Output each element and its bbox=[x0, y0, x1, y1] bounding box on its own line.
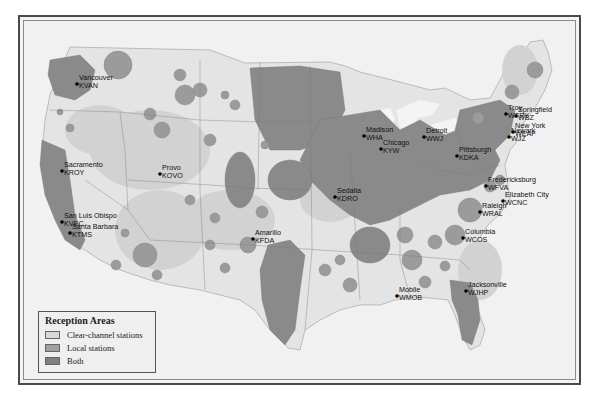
local-swatch bbox=[45, 344, 60, 352]
station-marker: Elizabeth CityWCNC bbox=[501, 190, 549, 207]
station-marker: SpringfieldWBZ bbox=[514, 105, 552, 122]
station-call-sign: WRAL bbox=[482, 209, 503, 218]
station-call-sign: WCNC bbox=[505, 198, 527, 207]
station-call-sign: KOVO bbox=[162, 171, 183, 180]
station-marker: NewarkWJZ bbox=[507, 126, 536, 143]
station-marker: SedaliaKDRO bbox=[333, 186, 361, 203]
clear-channel-swatch bbox=[45, 331, 60, 339]
legend-item-clear-channel: Clear-channel stations bbox=[45, 328, 149, 341]
legend-item-label: Both bbox=[67, 356, 84, 366]
station-marker: MobileWMOB bbox=[395, 285, 422, 302]
station-marker: ProvoKOVO bbox=[158, 163, 183, 180]
station-call-sign: KVAN bbox=[79, 81, 98, 90]
legend-title: Reception Areas bbox=[45, 315, 149, 326]
station-call-sign: WJHP bbox=[468, 288, 489, 297]
station-call-sign: KFDA bbox=[255, 236, 274, 245]
station-call-sign: WCOS bbox=[465, 235, 488, 244]
station-marker: ColumbiaWCOS bbox=[461, 227, 495, 244]
station-call-sign: KROY bbox=[64, 168, 85, 177]
station-marker: RaleighWRAL bbox=[478, 201, 506, 218]
station-call-sign: WJZ bbox=[511, 134, 526, 143]
station-call-sign: KDKA bbox=[459, 153, 479, 162]
legend-item-both: Both bbox=[45, 354, 149, 367]
map-legend: Reception Areas Clear-channel stations L… bbox=[38, 311, 156, 373]
station-marker: JacksonvilleWJHP bbox=[464, 280, 507, 297]
both-swatch bbox=[45, 357, 60, 365]
station-call-sign: KYW bbox=[383, 146, 400, 155]
legend-item-label: Clear-channel stations bbox=[67, 330, 143, 340]
station-call-sign: KTMS bbox=[72, 230, 92, 239]
station-call-sign: WMOB bbox=[399, 293, 422, 302]
station-call-sign: WHA bbox=[366, 133, 383, 142]
legend-item-label: Local stations bbox=[67, 343, 114, 353]
station-call-sign: WWJ bbox=[426, 134, 444, 143]
legend-item-local: Local stations bbox=[45, 341, 149, 354]
station-call-sign: KDRO bbox=[337, 194, 358, 203]
